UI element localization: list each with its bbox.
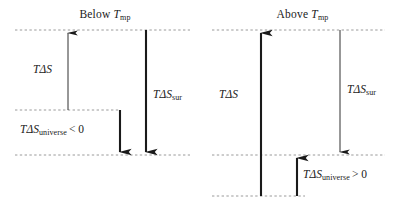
label-relation: < 0 <box>67 123 84 135</box>
label-symbol: TΔS <box>347 83 366 95</box>
label-subscript: universe <box>322 173 350 182</box>
panel-title-prefix: Below <box>79 8 113 20</box>
label-t-delta-s-right: TΔS <box>219 88 238 100</box>
panel-title-subscript: mp <box>120 13 130 22</box>
label-t-delta-s-universe-left: TΔSuniverse< 0 <box>20 123 84 135</box>
panel-title-prefix: Above <box>277 8 312 20</box>
label-subscript: universe <box>39 128 67 137</box>
panel-title-above-mp: Above Tmp <box>255 8 350 20</box>
label-t-delta-s-left: TΔS <box>33 63 52 75</box>
label-symbol: TΔS <box>219 88 238 100</box>
label-subscript: sur <box>366 88 376 97</box>
label-subscript: sur <box>172 93 182 102</box>
label-relation: > 0 <box>350 168 367 180</box>
label-t-delta-s-sur-right: TΔSsur <box>347 83 376 95</box>
entropy-diagram-figure: Below Tmp TΔS TΔSuniverse< 0 TΔSsur Abov… <box>0 0 399 212</box>
label-symbol: TΔS <box>153 88 172 100</box>
label-symbol: TΔS <box>33 63 52 75</box>
label-symbol: TΔS <box>20 123 39 135</box>
panel-title-subscript: mp <box>318 13 328 22</box>
label-t-delta-s-universe-right: TΔSuniverse> 0 <box>303 168 367 180</box>
label-t-delta-s-sur-left: TΔSsur <box>153 88 182 100</box>
panel-title-below-mp: Below Tmp <box>60 8 150 20</box>
panel-title-symbol: T <box>311 8 318 20</box>
label-symbol: TΔS <box>303 168 322 180</box>
